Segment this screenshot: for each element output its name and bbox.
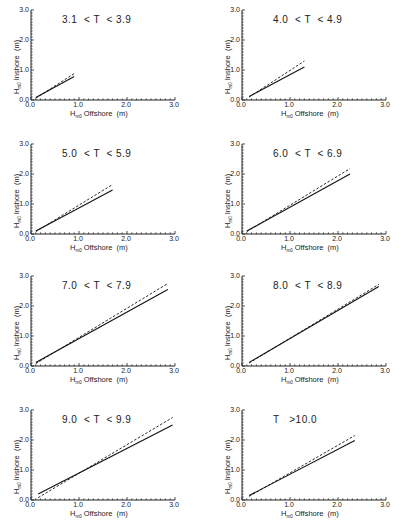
x-tick-label: 2.0 <box>332 501 342 508</box>
chart-svg: 0.00.01.01.02.02.03.03.0 5.0 < T < 5.9 H… <box>0 134 199 265</box>
plot-lines <box>249 284 379 363</box>
chart-panel-8: 0.00.01.01.02.02.03.03.0 T >10.0 Hm0 Off… <box>211 400 399 524</box>
x-axis-label: Hm0 Offshore (m) <box>281 109 339 119</box>
y-tick-label: 0.0 <box>19 362 29 369</box>
chart-panel-4: 0.00.01.01.02.02.03.03.0 6.0 < T < 6.9 H… <box>211 134 399 265</box>
x-tick-label: 1.0 <box>73 367 83 374</box>
x-tick-label: 1.0 <box>284 101 294 108</box>
y-tick-label: 3.0 <box>230 6 240 13</box>
x-axis-label: Hm0 Offshore (m) <box>70 109 128 119</box>
chart-svg: 0.00.01.01.02.02.03.03.0 4.0 < T < 4.9 H… <box>211 0 399 131</box>
chart-panel-7: 0.00.01.01.02.02.03.03.0 9.0 < T < 9.9 H… <box>0 400 199 524</box>
chart-svg: 0.00.01.01.02.02.03.03.0 8.0 < T < 8.9 H… <box>211 266 399 397</box>
x-tick-label: 3.0 <box>169 367 179 374</box>
chart-panel-5: 0.00.01.01.02.02.03.03.0 7.0 < T < 7.9 H… <box>0 266 199 397</box>
chart-panel-1: 0.00.01.01.02.02.03.03.0 3.1 < T < 3.9 H… <box>0 0 199 131</box>
chart-title: T >10.0 <box>273 414 317 425</box>
solid-line <box>38 425 172 494</box>
x-axis-label: Hm0 Offshore (m) <box>70 509 128 519</box>
x-tick-label: 3.0 <box>380 101 390 108</box>
x-axis-label: Hm0 Offshore (m) <box>281 243 339 253</box>
x-axis-label: Hm0 Offshore (m) <box>281 375 339 385</box>
chart-title: 3.1 < T < 3.9 <box>62 14 131 25</box>
plot-lines <box>36 74 74 99</box>
x-tick-label: 2.0 <box>121 235 131 242</box>
x-tick-label: 3.0 <box>169 235 179 242</box>
x-axis-label: Hm0 Offshore (m) <box>70 375 128 385</box>
y-tick-label: 3.0 <box>19 140 29 147</box>
y-axis-label: Hm0 Inshore (m) <box>12 305 22 360</box>
dashed-line <box>249 61 304 97</box>
chart-title: 9.0 < T < 9.9 <box>62 414 131 425</box>
y-tick-label: 3.0 <box>19 406 29 413</box>
x-tick-label: 2.0 <box>332 367 342 374</box>
chart-title: 7.0 < T < 7.9 <box>62 280 131 291</box>
dashed-line <box>249 284 379 363</box>
plot-lines <box>247 169 350 232</box>
chart-svg: 0.00.01.01.02.02.03.03.0 T >10.0 Hm0 Off… <box>211 400 399 524</box>
x-tick-label: 2.0 <box>121 501 131 508</box>
x-tick-label: 2.0 <box>121 101 131 108</box>
plot-lines <box>36 284 168 364</box>
y-axis-label: Hm0 Inshore (m) <box>223 173 233 228</box>
chart-title: 6.0 < T < 6.9 <box>273 148 342 159</box>
chart-title: 8.0 < T < 8.9 <box>273 280 342 291</box>
plot-lines <box>38 418 172 498</box>
y-tick-label: 3.0 <box>230 272 240 279</box>
y-tick-label: 0.0 <box>230 362 240 369</box>
x-tick-label: 1.0 <box>73 235 83 242</box>
solid-line <box>36 77 74 98</box>
chart-svg: 0.00.01.01.02.02.03.03.0 6.0 < T < 6.9 H… <box>211 134 399 265</box>
dashed-line <box>249 436 355 497</box>
dashed-line <box>247 169 350 232</box>
y-tick-label: 3.0 <box>230 406 240 413</box>
plot-lines <box>249 436 355 497</box>
plot-lines <box>249 61 304 97</box>
plot-lines <box>36 185 113 232</box>
x-tick-label: 3.0 <box>380 367 390 374</box>
x-tick-label: 1.0 <box>284 235 294 242</box>
chart-svg: 0.00.01.01.02.02.03.03.0 9.0 < T < 9.9 H… <box>0 400 199 524</box>
x-tick-label: 1.0 <box>73 501 83 508</box>
y-axis-label: Hm0 Inshore (m) <box>223 39 233 94</box>
y-tick-label: 3.0 <box>19 272 29 279</box>
y-tick-label: 0.0 <box>19 96 29 103</box>
y-tick-label: 0.0 <box>19 230 29 237</box>
x-tick-label: 2.0 <box>332 235 342 242</box>
x-tick-label: 3.0 <box>169 101 179 108</box>
chart-svg: 0.00.01.01.02.02.03.03.0 7.0 < T < 7.9 H… <box>0 266 199 397</box>
x-axis-label: Hm0 Offshore (m) <box>70 243 128 253</box>
x-tick-label: 3.0 <box>380 501 390 508</box>
chart-panel-2: 0.00.01.01.02.02.03.03.0 4.0 < T < 4.9 H… <box>211 0 399 131</box>
dashed-line <box>36 185 113 232</box>
chart-panel-3: 0.00.01.01.02.02.03.03.0 5.0 < T < 5.9 H… <box>0 134 199 265</box>
y-tick-label: 0.0 <box>230 496 240 503</box>
chart-title: 4.0 < T < 4.9 <box>273 14 342 25</box>
y-axis-label: Hm0 Inshore (m) <box>12 439 22 494</box>
chart-svg: 0.00.01.01.02.02.03.03.0 3.1 < T < 3.9 H… <box>0 0 199 131</box>
y-axis-label: Hm0 Inshore (m) <box>12 173 22 228</box>
chart-title: 5.0 < T < 5.9 <box>62 148 131 159</box>
y-tick-label: 0.0 <box>230 96 240 103</box>
y-tick-label: 3.0 <box>19 6 29 13</box>
x-tick-label: 3.0 <box>169 501 179 508</box>
y-axis-label: Hm0 Inshore (m) <box>223 305 233 360</box>
x-axis-label: Hm0 Offshore (m) <box>281 509 339 519</box>
x-tick-label: 1.0 <box>284 501 294 508</box>
x-tick-label: 3.0 <box>380 235 390 242</box>
y-tick-label: 0.0 <box>230 230 240 237</box>
x-tick-label: 2.0 <box>121 367 131 374</box>
dashed-line <box>36 284 168 364</box>
x-tick-label: 1.0 <box>284 367 294 374</box>
chart-panel-6: 0.00.01.01.02.02.03.03.0 8.0 < T < 8.9 H… <box>211 266 399 397</box>
y-axis-label: Hm0 Inshore (m) <box>12 39 22 94</box>
y-tick-label: 3.0 <box>230 140 240 147</box>
x-tick-label: 2.0 <box>332 101 342 108</box>
dashed-line <box>38 418 172 498</box>
y-tick-label: 0.0 <box>19 496 29 503</box>
y-axis-label: Hm0 Inshore (m) <box>223 439 233 494</box>
x-tick-label: 1.0 <box>73 101 83 108</box>
